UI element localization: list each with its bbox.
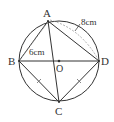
segment-ad: [48, 21, 99, 61]
center-dot: [58, 60, 61, 63]
label-c: C: [55, 105, 62, 117]
measure-ad: 8cm: [81, 17, 97, 27]
label-d: D: [101, 55, 109, 67]
label-b: B: [8, 55, 15, 67]
vertex-a-dot: [47, 20, 49, 22]
vertex-c-dot: [58, 101, 60, 103]
vertex-d-dot: [98, 60, 100, 62]
measure-ab: 6cm: [29, 47, 45, 57]
vertex-b-dot: [18, 60, 20, 62]
circle-quadrilateral-diagram: A B C D O 6cm 8cm: [0, 0, 114, 122]
label-o: O: [56, 63, 63, 74]
label-a: A: [43, 7, 51, 19]
